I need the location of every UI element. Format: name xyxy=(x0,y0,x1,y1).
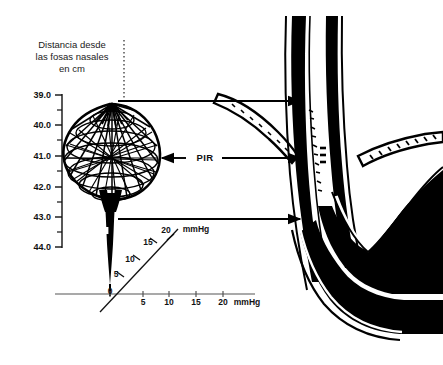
y-tick-label: 41.0 xyxy=(33,151,51,161)
depth-axis-unit-label: mmHg xyxy=(183,224,209,234)
probe-highlight xyxy=(105,227,108,234)
pir-label: PIR xyxy=(196,152,213,163)
depth-tick-label: 15 xyxy=(143,237,153,247)
x-tick-label: 5 xyxy=(141,297,146,307)
x-axis-unit-label: mmHg xyxy=(234,297,260,307)
y-tick-label: 43.0 xyxy=(33,212,51,222)
x-tick-label: 15 xyxy=(191,297,201,307)
depth-tick-label: 5 xyxy=(114,269,119,279)
y-tick-label: 42.0 xyxy=(33,182,51,192)
y-tick-label: 40.0 xyxy=(33,120,51,130)
y-tick-label: 44.0 xyxy=(33,242,51,252)
y-axis-title-line2: las fosas nasales xyxy=(36,51,109,62)
y-axis-title-line3: en cm xyxy=(59,63,85,74)
depth-tick-label: 10 xyxy=(125,254,135,264)
y-tick-label: 39.0 xyxy=(33,90,51,100)
x-tick-label: 0 xyxy=(108,286,113,296)
manometry-figure: Distancia desde las fosas nasales en cm … xyxy=(0,0,443,365)
y-axis-title-line1: Distancia desde xyxy=(38,39,106,50)
x-tick-label: 10 xyxy=(164,297,174,307)
depth-tick-label: 20 xyxy=(161,225,171,235)
x-tick-label: 20 xyxy=(218,297,228,307)
figure-canvas: Distancia desde las fosas nasales en cm … xyxy=(0,0,443,365)
